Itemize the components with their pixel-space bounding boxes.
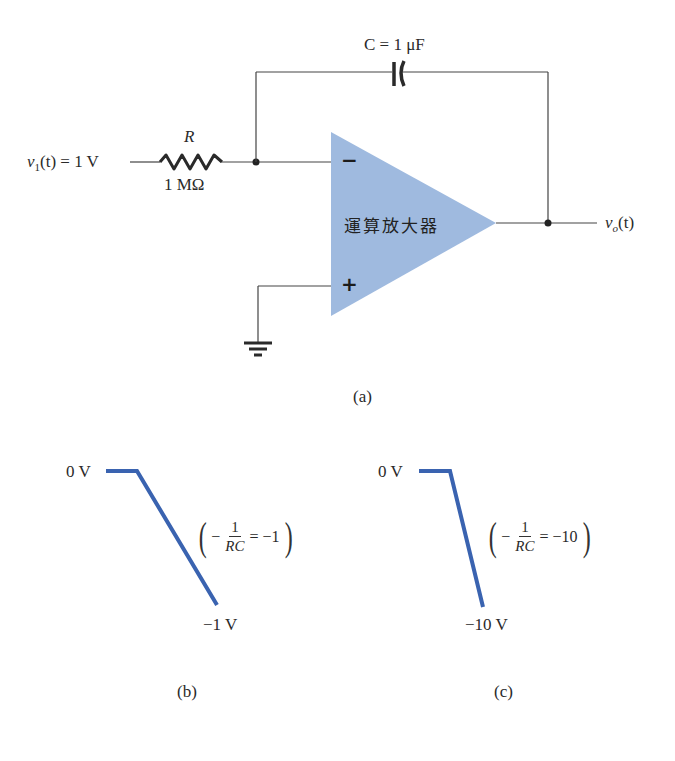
resistor-value-label: 1 MΩ bbox=[164, 176, 205, 193]
output-rest: (t) bbox=[618, 213, 634, 232]
circuit-diagram bbox=[0, 0, 675, 761]
caption-a: (a) bbox=[353, 388, 372, 405]
slope-value: = −10 bbox=[540, 528, 578, 546]
caption-c: (c) bbox=[494, 683, 513, 700]
input-sub: 1 bbox=[35, 161, 41, 173]
graph-c-top-label: 0 V bbox=[378, 463, 403, 480]
fraction-numerator: 1 bbox=[519, 519, 531, 537]
fraction-denominator: RC bbox=[225, 537, 244, 555]
resistor-name-label: R bbox=[184, 128, 194, 145]
close-paren: ) bbox=[284, 517, 292, 557]
input-rest: (t) = 1 V bbox=[40, 152, 99, 171]
opamp-plus-sign: + bbox=[341, 274, 358, 294]
capacitor-label: C = 1 μF bbox=[364, 36, 425, 53]
fraction: 1 RC bbox=[515, 519, 534, 555]
output-sub: o bbox=[613, 222, 619, 234]
minus-prefix: − bbox=[501, 528, 510, 546]
graph-b-bottom-label: −1 V bbox=[203, 616, 237, 633]
output-node-dot bbox=[545, 220, 552, 227]
graph-c-line bbox=[419, 471, 483, 607]
output-var: v bbox=[605, 213, 613, 232]
fraction-numerator: 1 bbox=[229, 519, 241, 537]
capacitor-value: C = 1 μF bbox=[364, 35, 425, 54]
graph-b-slope-expression: ( − 1 RC = −1 ) bbox=[196, 517, 295, 557]
graph-b-top-label: 0 V bbox=[66, 463, 91, 480]
open-paren: ( bbox=[199, 517, 207, 557]
graph-c-slope-expression: ( − 1 RC = −10 ) bbox=[486, 517, 593, 557]
input-var: v bbox=[27, 152, 35, 171]
resistor-icon bbox=[160, 155, 222, 169]
open-paren: ( bbox=[489, 517, 497, 557]
opamp-label: 運算放大器 bbox=[344, 212, 439, 237]
opamp-minus-sign: − bbox=[341, 150, 358, 170]
caption-b: (b) bbox=[177, 683, 197, 700]
capacitor-plate-curved bbox=[401, 61, 404, 86]
slope-value: = −1 bbox=[250, 528, 280, 546]
fraction-denominator: RC bbox=[515, 537, 534, 555]
ground-icon bbox=[244, 343, 272, 355]
minus-prefix: − bbox=[211, 528, 220, 546]
close-paren: ) bbox=[582, 517, 590, 557]
output-voltage-label: vo(t) bbox=[605, 214, 634, 231]
input-voltage-label: v1(t) = 1 V bbox=[27, 153, 99, 170]
fraction: 1 RC bbox=[225, 519, 244, 555]
graph-c-bottom-label: −10 V bbox=[465, 616, 508, 633]
